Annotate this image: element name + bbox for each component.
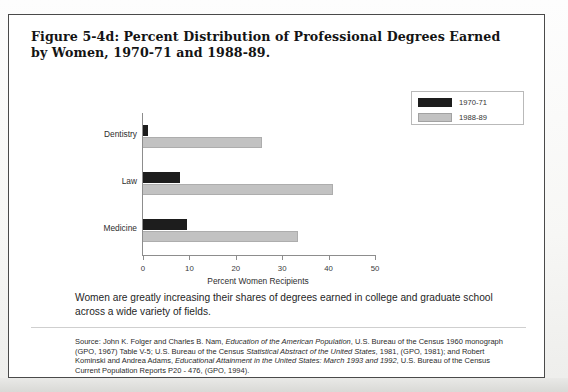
plot-area: 01020304050DentistryLawMedicine: [142, 113, 375, 256]
x-tick: [375, 255, 376, 260]
x-tick: [189, 255, 190, 260]
bar-law-1970-71: [143, 172, 180, 183]
source-title-italic: Educational Attainment in the United Sta…: [175, 356, 397, 365]
x-tick: [329, 255, 330, 260]
x-axis-title: Percent Women Recipients: [142, 276, 374, 286]
category-label: Dentistry: [104, 129, 137, 139]
caption-divider: [31, 327, 526, 328]
chart-legend: 1970-71 1988-89: [411, 91, 524, 125]
bar-medicine-1988-89: [143, 231, 298, 242]
bar-group: Dentistry: [143, 125, 375, 149]
x-tick-label: 40: [324, 264, 333, 273]
bar-dentistry-1970-71: [143, 125, 148, 136]
x-tick-label: 50: [371, 264, 380, 273]
figure-frame: Figure 5-4d: Percent Distribution of Pro…: [8, 14, 545, 378]
figure-caption: Women are greatly increasing their share…: [75, 291, 525, 319]
source-citation: Source: John K. Folger and Charles B. Na…: [75, 337, 512, 375]
legend-swatch-1970-71: [418, 98, 452, 107]
x-tick: [282, 255, 283, 260]
legend-item-1988-89: 1988-89: [418, 111, 517, 123]
bar-group: Law: [143, 172, 375, 196]
bar-law-1988-89: [143, 184, 333, 195]
bar-group: Medicine: [143, 219, 375, 243]
x-tick-label: 30: [278, 264, 287, 273]
legend-label-1970-71: 1970-71: [459, 98, 487, 107]
source-title-italic: Education of the American Population: [226, 337, 351, 346]
category-label: Law: [122, 176, 137, 186]
x-tick-label: 20: [231, 264, 240, 273]
x-tick: [143, 255, 144, 260]
source-text: Source: John K. Folger and Charles B. Na…: [75, 337, 226, 346]
x-tick-label: 10: [185, 264, 194, 273]
x-tick: [236, 255, 237, 260]
legend-swatch-1988-89: [418, 113, 452, 122]
source-title-italic: Statistical Abstract of the United State…: [246, 347, 375, 356]
figure-title: Figure 5-4d: Percent Distribution of Pro…: [31, 29, 511, 60]
bar-medicine-1970-71: [143, 219, 187, 230]
legend-item-1970-71: 1970-71: [418, 96, 517, 108]
chart-container: 1970-71 1988-89 01020304050DentistryLawM…: [21, 73, 534, 285]
category-label: Medicine: [103, 223, 137, 233]
x-tick-label: 0: [141, 264, 145, 273]
legend-label-1988-89: 1988-89: [459, 113, 487, 122]
bar-dentistry-1988-89: [143, 137, 262, 148]
